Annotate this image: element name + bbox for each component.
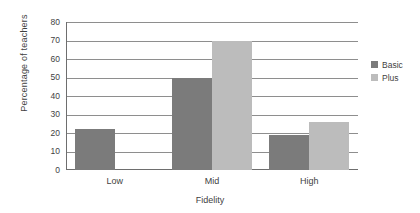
y-axis-tick-label: 40: [38, 92, 60, 101]
legend-label-basic: Basic: [382, 60, 403, 70]
bar-mid-plus[interactable]: [212, 41, 252, 171]
bar-low-basic[interactable]: [75, 129, 115, 170]
y-axis-tick-label: 60: [38, 55, 60, 64]
legend-swatch-basic: [371, 61, 378, 68]
x-axis-tick-label-mid: Mid: [182, 176, 242, 186]
legend: Basic Plus: [371, 58, 403, 84]
legend-label-plus: Plus: [382, 73, 399, 83]
bar-mid-basic[interactable]: [172, 78, 212, 171]
legend-item-basic[interactable]: Basic: [371, 58, 403, 71]
y-axis-line: [66, 22, 67, 170]
legend-swatch-plus: [371, 74, 378, 81]
y-axis-tick-label: 80: [38, 18, 60, 27]
x-axis-tick-label-high: High: [279, 176, 339, 186]
y-axis-tick-label: 70: [38, 36, 60, 45]
y-axis-tick-label: 10: [38, 147, 60, 156]
y-axis-tick-label: 0: [38, 166, 60, 175]
bar-high-basic[interactable]: [269, 135, 309, 170]
y-axis-tick-label: 30: [38, 110, 60, 119]
x-axis-title: Fidelity: [0, 195, 420, 205]
legend-item-plus[interactable]: Plus: [371, 71, 403, 84]
y-axis-tick-label: 20: [38, 129, 60, 138]
bar-chart-figure: Percentage of teachers 01020304050607080…: [0, 0, 420, 213]
plot-area: [66, 22, 358, 170]
gridline: [66, 22, 358, 23]
y-axis-tick-label: 50: [38, 73, 60, 82]
bar-high-plus[interactable]: [309, 122, 349, 170]
x-axis-tick-label-low: Low: [85, 176, 145, 186]
y-axis-title: Percentage of teachers: [19, 0, 29, 133]
